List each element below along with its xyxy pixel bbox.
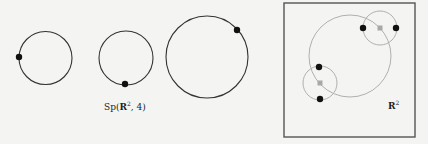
plane-frame [284, 3, 415, 137]
space-label: Sp(R2, 4) [104, 100, 146, 112]
marked-point [122, 81, 128, 87]
circle-configurations [16, 16, 248, 98]
small-circle-group-1 [360, 11, 399, 45]
loop-circle [99, 31, 153, 85]
marked-point [360, 25, 366, 31]
configuration-1 [16, 32, 72, 85]
small-circle-group-2 [303, 64, 337, 102]
center-marker [318, 81, 323, 86]
loop-circle [19, 32, 72, 85]
plane-label: R2 [388, 99, 399, 111]
center-marker [378, 26, 383, 31]
plane-panel: R2 [284, 3, 415, 137]
marked-point [316, 64, 322, 70]
marked-point [234, 27, 240, 33]
configuration-2 [99, 31, 153, 87]
marked-point [393, 25, 399, 31]
diagram-canvas: Sp(R2, 4) R2 [0, 0, 428, 144]
configuration-3 [166, 16, 248, 98]
marked-point [16, 54, 22, 60]
marked-point [317, 96, 323, 102]
